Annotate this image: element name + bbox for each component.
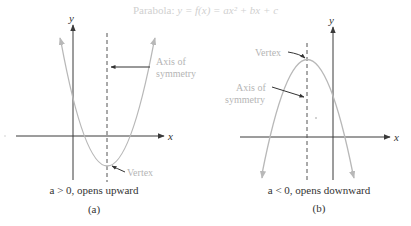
axis-symmetry-pointer-b xyxy=(272,87,304,97)
axis-symmetry-label-a-line2: symmetry xyxy=(156,68,196,79)
diagram-canvas: x y Axis of symmetry Vertex a > 0, opens… xyxy=(0,0,411,226)
vertex-pointer-b xyxy=(288,52,305,58)
x-axis-label-b: x xyxy=(393,131,399,143)
axis-symmetry-label-b-line1: Axis of xyxy=(236,82,266,93)
x-axis-label-a: x xyxy=(167,130,173,142)
axis-symmetry-label-a-line1: Axis of xyxy=(156,56,186,67)
vertex-label-a: Vertex xyxy=(127,167,153,178)
parabola-figure: Parabola: y = f(x) = ax² + bx + c x y xyxy=(0,0,411,226)
title-equation: y = f(x) = ax² + bx + c xyxy=(177,4,278,16)
title-prefix: Parabola: xyxy=(133,4,177,16)
axis-symmetry-label-b-line2: symmetry xyxy=(225,94,265,105)
panel-b: x y Vertex Axis of symmetry a < 0, opens… xyxy=(225,14,399,215)
vertex-label-b: Vertex xyxy=(255,47,281,58)
condition-b: a < 0, opens downward xyxy=(268,184,371,196)
figure-title: Parabola: y = f(x) = ax² + bx + c xyxy=(0,4,411,16)
sublabel-a: (a) xyxy=(88,203,101,216)
sublabel-b: (b) xyxy=(313,202,326,215)
panel-a: x y Axis of symmetry Vertex a > 0, opens… xyxy=(16,12,196,216)
vertex-pointer-a xyxy=(112,166,125,172)
condition-a: a > 0, opens upward xyxy=(50,184,139,196)
